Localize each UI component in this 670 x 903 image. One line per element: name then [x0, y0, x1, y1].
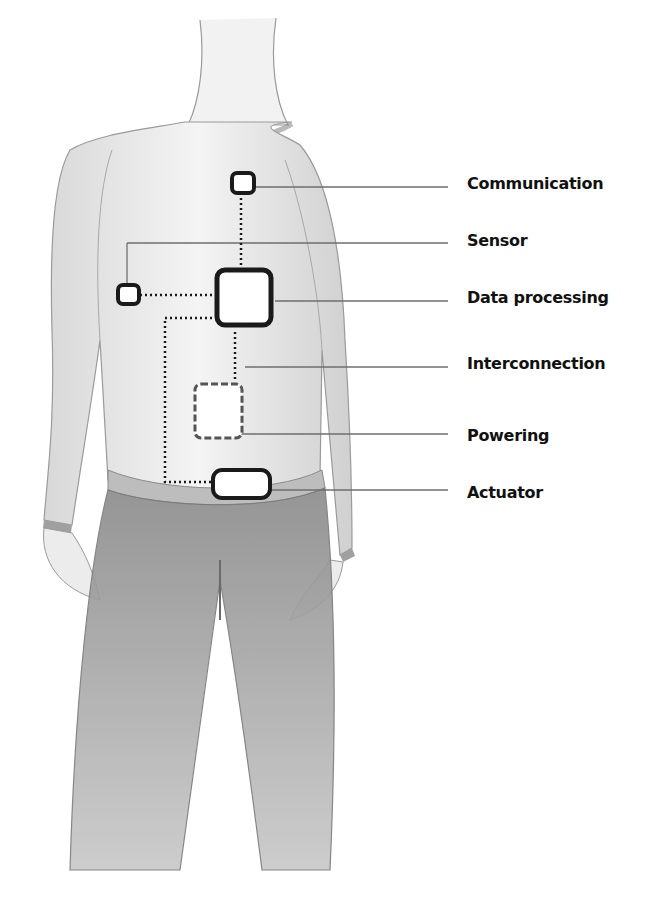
figure-sketch: [0, 0, 670, 903]
label-sensor: Sensor: [467, 231, 527, 250]
trousers-sketch: [70, 488, 334, 870]
diagram-stage: Communication Sensor Data processing Int…: [0, 0, 670, 903]
label-actuator: Actuator: [467, 483, 543, 502]
label-data-processing: Data processing: [467, 288, 609, 307]
label-communication: Communication: [467, 174, 603, 193]
label-interconnection: Interconnection: [467, 354, 605, 373]
neck-sketch: [186, 18, 292, 138]
data-processing-component: [217, 270, 271, 325]
label-powering: Powering: [467, 426, 549, 445]
communication-component: [232, 173, 254, 193]
powering-component: [195, 384, 242, 438]
actuator-component: [213, 470, 270, 498]
sensor-component: [118, 285, 139, 304]
